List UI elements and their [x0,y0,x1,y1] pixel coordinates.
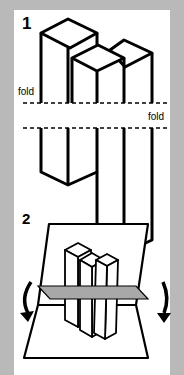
step1-columns [41,19,152,103]
step-number-1: 1 [22,15,31,32]
fold-lines [23,103,168,128]
diagram-canvas [0,0,184,375]
step-number-2: 2 [22,211,30,226]
fold-crease [38,286,148,299]
fold-label-left: fold [18,87,34,97]
fold-label-right: fold [148,112,164,122]
